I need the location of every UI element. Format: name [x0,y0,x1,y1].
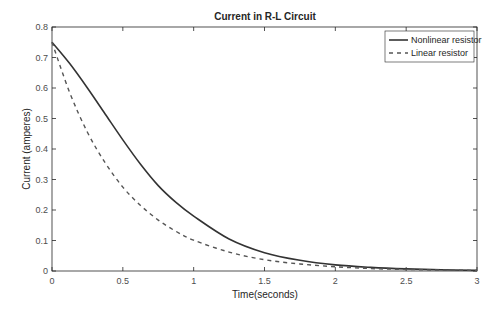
chart-title: Current in R-L Circuit [214,11,316,22]
legend-item-nonlinear: Nonlinear resistor [411,35,482,45]
y-tick-label: 0.2 [35,205,48,215]
x-tick-label: 0.5 [117,276,130,286]
y-tick-label: 0.8 [35,22,48,32]
y-tick-label: 0.1 [35,236,48,246]
x-axis-label: Time(seconds) [232,289,298,300]
y-tick-label: 0 [43,266,48,276]
x-tick-label: 1.5 [258,276,271,286]
plot-area [52,27,477,271]
y-tick-label: 0.4 [35,144,48,154]
x-tick-label: 2 [333,276,338,286]
y-tick-label: 0.7 [35,53,48,63]
x-tick-label: 1 [191,276,196,286]
legend-item-linear: Linear resistor [411,48,468,58]
x-tick-label: 3 [474,276,479,286]
x-tick-label: 0 [49,276,54,286]
y-tick-label: 0.5 [35,114,48,124]
legend: Nonlinear resistor Linear resistor [385,31,482,62]
y-axis-label: Current (amperes) [21,108,32,190]
line-chart: Current in R-L Circuit 00.511.522.5300.1… [0,0,503,317]
x-tick-label: 2.5 [400,276,413,286]
y-tick-label: 0.6 [35,83,48,93]
y-tick-label: 0.3 [35,175,48,185]
